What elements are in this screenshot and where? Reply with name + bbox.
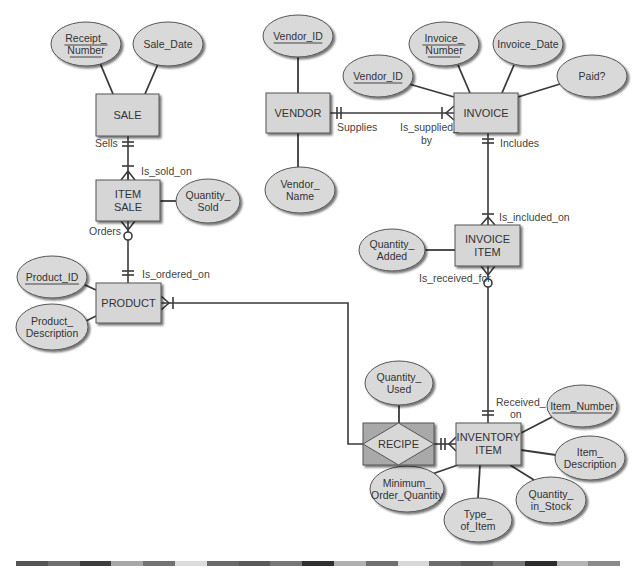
attribute-product-id[interactable]: Product_ID bbox=[17, 256, 87, 298]
attribute-link-type-of-item bbox=[478, 465, 480, 498]
attribute-label: Item_ bbox=[577, 446, 603, 458]
attribute-label: Quantity_ bbox=[377, 371, 422, 383]
attribute-label: Product_ bbox=[31, 315, 73, 327]
er-diagram: Receipt_NumberSale_DateQuantity_SoldProd… bbox=[0, 0, 636, 570]
label-received-on-1: Received_ bbox=[496, 396, 546, 408]
attribute-link-item-description bbox=[521, 450, 556, 455]
label-sells: Sells bbox=[95, 137, 118, 149]
label-includes: Includes bbox=[500, 137, 539, 149]
attribute-link-minimum-order-quantity bbox=[432, 465, 458, 474]
crowfoot-icon bbox=[121, 171, 135, 180]
stripe-segment bbox=[525, 561, 557, 566]
attribute-label: Quantity_ bbox=[186, 189, 231, 201]
stripe-segment bbox=[143, 561, 175, 566]
attribute-label: Name bbox=[286, 190, 314, 202]
attribute-label: Vendor_ID bbox=[353, 70, 403, 82]
entity-label: INVENTORY bbox=[457, 431, 521, 443]
entity-label: PRODUCT bbox=[101, 297, 156, 309]
attribute-quantity-used[interactable]: Quantity_Used bbox=[365, 361, 433, 405]
attribute-label: Minimum_ bbox=[383, 477, 432, 489]
associative-entity-recipe[interactable]: RECIPE bbox=[363, 423, 434, 465]
attribute-label: Used bbox=[387, 383, 412, 395]
attribute-label: Description bbox=[564, 458, 617, 470]
stripe-segment bbox=[334, 561, 366, 566]
attribute-vendor-id-i[interactable]: Vendor_ID bbox=[343, 55, 413, 97]
attribute-vendor-name[interactable]: Vendor_Name bbox=[265, 167, 335, 213]
attribute-label: Quantity_ bbox=[370, 238, 415, 250]
label-received-on-2: on bbox=[510, 408, 522, 420]
entity-invoice[interactable]: INVOICE bbox=[454, 93, 518, 133]
stripe-segment bbox=[429, 561, 461, 566]
entity-product[interactable]: PRODUCT bbox=[96, 283, 161, 323]
stripe-segment bbox=[461, 561, 493, 566]
attribute-vendor-id-v[interactable]: Vendor_ID bbox=[263, 15, 333, 57]
stripe-segment bbox=[366, 561, 398, 566]
relationship-labels: Sells Is_sold_on Orders Is_ordered_on Su… bbox=[89, 121, 570, 420]
stripe-segment bbox=[207, 561, 239, 566]
attribute-quantity-sold[interactable]: Quantity_Sold bbox=[176, 179, 240, 223]
stripe-segment bbox=[175, 561, 207, 566]
attribute-label: Vendor_ bbox=[280, 178, 319, 190]
stripe-segment bbox=[270, 561, 302, 566]
attribute-label: Receipt_ bbox=[65, 32, 107, 44]
attribute-type-of-item[interactable]: Type_of_Item bbox=[444, 498, 512, 542]
attribute-link-receipt-number bbox=[100, 63, 113, 94]
attribute-sale-date[interactable]: Sale_Date bbox=[133, 22, 203, 66]
attribute-invoice-number[interactable]: Invoice_Number bbox=[409, 22, 479, 66]
attribute-product-description[interactable]: Product_Description bbox=[16, 304, 88, 350]
entity-label: ITEM bbox=[115, 188, 141, 200]
optional-circle-icon bbox=[124, 232, 132, 240]
attribute-label: Invoice_Date bbox=[497, 38, 558, 50]
attribute-paid[interactable]: Paid? bbox=[557, 55, 627, 97]
attribute-label: Order_Quantity bbox=[371, 489, 444, 501]
attribute-invoice-date[interactable]: Invoice_Date bbox=[493, 22, 563, 66]
attribute-label: Number bbox=[425, 44, 463, 56]
attribute-item-number[interactable]: Item_Number bbox=[547, 385, 617, 427]
attribute-item-description[interactable]: Item_Description bbox=[555, 436, 625, 480]
label-orders: Orders bbox=[89, 225, 121, 237]
attribute-receipt-number[interactable]: Receipt_Number bbox=[51, 22, 121, 66]
label-is-sold-on: Is_sold_on bbox=[141, 165, 192, 177]
attribute-label: Added bbox=[377, 250, 408, 262]
attribute-label: Vendor_ID bbox=[273, 30, 323, 42]
label-is-received-for: Is_received_for bbox=[419, 272, 491, 284]
attribute-quantity-added[interactable]: Quantity_Added bbox=[359, 229, 425, 271]
entity-label: ITEM bbox=[475, 444, 501, 456]
entity-inventory-item[interactable]: INVENTORYITEM bbox=[456, 423, 521, 465]
entity-label: INVOICE bbox=[465, 233, 510, 245]
attribute-link-paid bbox=[518, 84, 560, 97]
stripe-segment bbox=[398, 561, 430, 566]
entity-label: SALE bbox=[114, 201, 142, 213]
attribute-link-invoice-date bbox=[502, 65, 514, 93]
entity-label: ITEM bbox=[474, 246, 500, 258]
stripe-segment bbox=[302, 561, 334, 566]
attribute-link-item-number bbox=[521, 417, 552, 433]
label-is-supplied-by-1: Is_supplied_ bbox=[400, 121, 459, 133]
attribute-label: Item_Number bbox=[550, 400, 614, 412]
attribute-link-sale-date bbox=[145, 64, 158, 94]
entity-sale[interactable]: SALE bbox=[96, 94, 159, 136]
entity-label: VENDOR bbox=[274, 107, 321, 119]
entity-label: SALE bbox=[113, 109, 141, 121]
entity-item-sale[interactable]: ITEMSALE bbox=[96, 180, 160, 221]
attribute-label: Description bbox=[26, 327, 79, 339]
label-is-ordered-on: Is_ordered_on bbox=[142, 268, 210, 280]
stripe-segment bbox=[48, 561, 80, 566]
stripe-segment bbox=[239, 561, 271, 566]
attribute-link-invoice-number bbox=[458, 65, 470, 93]
stripe-segment bbox=[557, 561, 589, 566]
attribute-label: in_Stock bbox=[531, 500, 572, 512]
decorative-color-stripe bbox=[16, 561, 620, 566]
entity-vendor[interactable]: VENDOR bbox=[266, 93, 330, 133]
attribute-label: Invoice_ bbox=[424, 32, 463, 44]
stripe-segment bbox=[493, 561, 525, 566]
attribute-label: Type_ bbox=[464, 508, 493, 520]
label-is-included-on: Is_included_on bbox=[499, 211, 570, 223]
entity-invoice-item[interactable]: INVOICEITEM bbox=[455, 225, 520, 266]
attribute-label: of_Item bbox=[460, 520, 495, 532]
attribute-link-vendor-id-i bbox=[409, 84, 454, 97]
attribute-quantity-in-stock[interactable]: Quantity_in_Stock bbox=[516, 477, 586, 523]
stripe-segment bbox=[588, 561, 620, 566]
label-supplies: Supplies bbox=[337, 121, 377, 133]
attribute-minimum-order-quantity[interactable]: Minimum_Order_Quantity bbox=[370, 466, 444, 512]
